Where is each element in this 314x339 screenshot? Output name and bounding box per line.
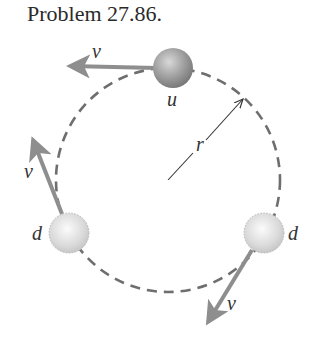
- particle-u-label: u: [167, 88, 177, 110]
- left-velocity-label: v: [24, 160, 33, 182]
- right-velocity-label: v: [227, 292, 236, 314]
- top-velocity-arrow: [70, 66, 156, 68]
- particle-u: [153, 48, 193, 88]
- particle-d-right-label: d: [288, 222, 299, 244]
- radius-label: r: [196, 133, 204, 155]
- radius-arrow: [206, 99, 243, 140]
- particle-d-left-label: d: [32, 222, 43, 244]
- quark-orbit-diagram: r v u v d v d: [0, 0, 314, 339]
- left-velocity-arrow: [33, 140, 62, 214]
- particle-d-right: [244, 213, 284, 253]
- top-velocity-label: v: [92, 40, 101, 62]
- particle-d-left: [49, 213, 89, 253]
- radius-line: [168, 153, 193, 180]
